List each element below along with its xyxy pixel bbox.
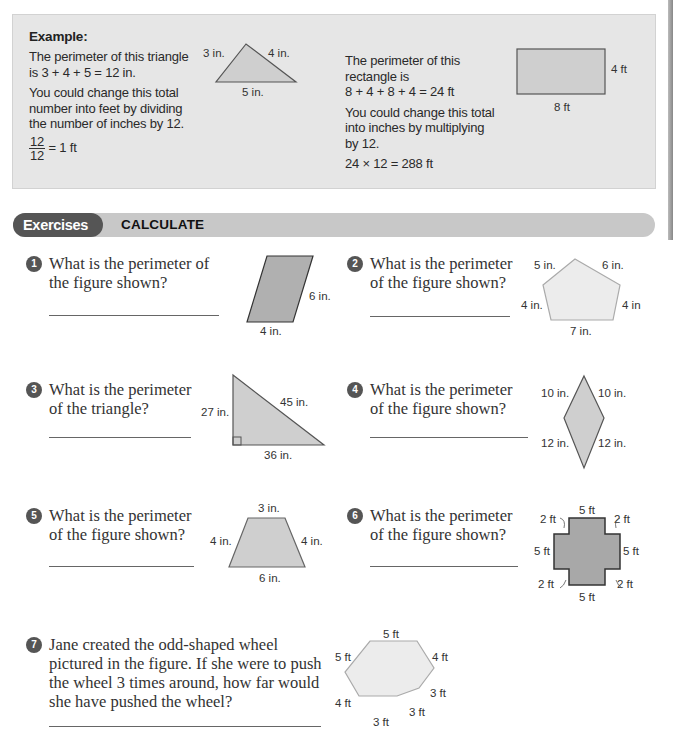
exercises-pill: Exercises: [13, 213, 103, 237]
question-2-text: What is the perimeter of the figure show…: [370, 254, 512, 292]
answer-line-7[interactable]: [49, 726, 321, 727]
answer-line-4[interactable]: [370, 437, 528, 438]
question-number-6: 6: [347, 508, 363, 524]
answer-line-2[interactable]: [370, 316, 510, 317]
question-number-4: 4: [347, 382, 363, 398]
question-7-text: Jane created the odd-shaped wheel pictur…: [49, 635, 322, 711]
question-number-7: 7: [26, 637, 42, 653]
example-box: Example: The perimeter of this triangle …: [12, 14, 656, 189]
example-triangle: [214, 42, 304, 92]
question-number-3: 3: [26, 382, 42, 398]
example-left-text: The perimeter of this triangle is 3 + 4 …: [29, 49, 219, 162]
fraction-line: 12 12 = 1 ft: [29, 135, 219, 162]
question-number-5: 5: [26, 508, 42, 524]
question-4-text: What is the perimeter of the figure show…: [370, 380, 512, 418]
leader-arrows: [540, 510, 660, 600]
example-right-text: The perimeter of this rectangle is 8 + 4…: [345, 53, 535, 172]
parallelogram-figure: [247, 255, 317, 325]
answer-line-3[interactable]: [49, 437, 191, 438]
page-edge: [668, 0, 673, 240]
example-rectangle: [516, 48, 608, 96]
trapezoid-figure: [228, 517, 308, 569]
heptagon-wheel-figure: [344, 640, 439, 715]
question-number-2: 2: [347, 256, 363, 272]
example-title: Example:: [29, 29, 87, 44]
question-number-1: 1: [26, 256, 42, 272]
fraction: 12 12: [29, 135, 45, 162]
answer-line-5[interactable]: [49, 566, 194, 567]
question-3-text: What is the perimeter of the triangle?: [49, 380, 191, 418]
section-heading: CALCULATE: [121, 213, 204, 237]
question-5-text: What is the perimeter of the figure show…: [49, 506, 191, 544]
exercises-banner: Exercises CALCULATE: [13, 213, 655, 237]
right-triangle-figure: [232, 374, 327, 446]
answer-line-6[interactable]: [370, 566, 518, 567]
answer-line-1[interactable]: [49, 315, 219, 316]
question-6-text: What is the perimeter of the figure show…: [370, 506, 512, 544]
question-1-text: What is the perimeter of the figure show…: [49, 254, 209, 292]
